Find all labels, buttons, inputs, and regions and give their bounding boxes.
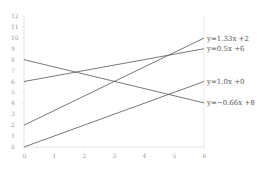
x-tick-label: 6 <box>203 152 207 159</box>
x-tick-label: 1 <box>53 152 57 159</box>
series-label: y=−0.66x +8 <box>206 99 255 107</box>
y-tick-label: 8 <box>11 56 15 63</box>
y-tick-label: 12 <box>11 12 19 19</box>
series-line <box>24 82 204 148</box>
x-tick-label: 5 <box>173 152 177 159</box>
y-tick-label: 6 <box>11 78 15 85</box>
y-tick-label: 4 <box>11 99 15 106</box>
x-tick-label: 0 <box>23 152 27 159</box>
line-chart: 0123456789101112 0123456 y=1.33x +2y=0.5… <box>0 0 257 169</box>
y-tick-label: 9 <box>11 45 15 52</box>
series-label: y=1.0x +0 <box>206 78 244 86</box>
y-tick-label: 1 <box>11 132 15 139</box>
series-label: y=1.33x +2 <box>206 35 249 43</box>
series-labels: y=1.33x +2y=0.5x +6y=1.0x +0y=−0.66x +8 <box>206 35 255 108</box>
y-tick-label: 2 <box>11 121 15 128</box>
y-tick-label: 3 <box>11 110 15 117</box>
series-line <box>24 49 204 82</box>
x-axis-ticks: 0123456 <box>23 147 207 159</box>
series-lines <box>24 38 204 147</box>
y-axis-ticks: 0123456789101112 <box>11 12 24 150</box>
series-line <box>24 60 204 103</box>
y-tick-label: 5 <box>11 88 15 95</box>
x-tick-label: 3 <box>113 152 117 159</box>
y-tick-label: 0 <box>11 143 15 150</box>
y-tick-label: 7 <box>11 67 15 74</box>
x-tick-label: 2 <box>83 152 87 159</box>
x-tick-label: 4 <box>143 152 147 159</box>
y-tick-label: 10 <box>11 34 19 41</box>
series-label: y=0.5x +6 <box>206 45 245 53</box>
y-tick-label: 11 <box>11 23 19 30</box>
